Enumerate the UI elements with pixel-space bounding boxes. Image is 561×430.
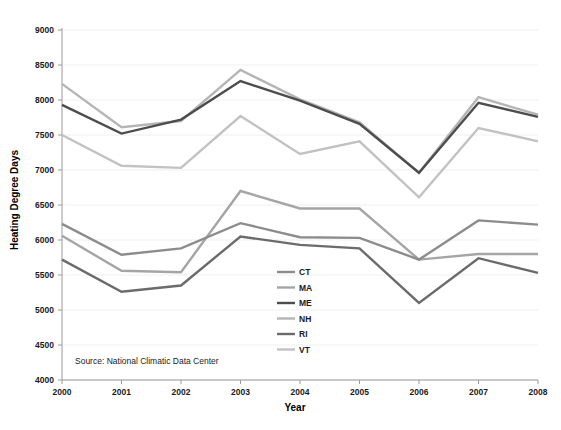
x-tick-label-2002: 2002 xyxy=(172,387,191,397)
legend-label-vt: VT xyxy=(299,345,311,355)
x-tick-label-2003: 2003 xyxy=(231,387,250,397)
y-tick-label-6000: 6000 xyxy=(35,235,54,245)
y-tick-label-5000: 5000 xyxy=(35,305,54,315)
x-tick-label-2008: 2008 xyxy=(529,387,548,397)
x-tick-label-2004: 2004 xyxy=(291,387,310,397)
y-tick-label-7500: 7500 xyxy=(35,130,54,140)
source-note: Source: National Climatic Data Center xyxy=(75,356,219,366)
legend-label-ri: RI xyxy=(299,329,308,339)
y-tick-label-7000: 7000 xyxy=(35,165,54,175)
y-tick-label-4500: 4500 xyxy=(35,340,54,350)
y-tick-label-4000: 4000 xyxy=(35,375,54,385)
legend-label-ma: MA xyxy=(299,283,312,293)
y-tick-label-8500: 8500 xyxy=(35,60,54,70)
x-tick-label-2001: 2001 xyxy=(112,387,131,397)
y-tick-label-9000: 9000 xyxy=(35,25,54,35)
legend-label-ct: CT xyxy=(299,267,311,277)
y-tick-label-6500: 6500 xyxy=(35,200,54,210)
line-chart: 4000450050005500600065007000750080008500… xyxy=(0,0,561,430)
y-tick-label-8000: 8000 xyxy=(35,95,54,105)
x-tick-label-2006: 2006 xyxy=(410,387,429,397)
y-axis-title: Heating Degree Days xyxy=(9,150,20,250)
chart-canvas: 4000450050005500600065007000750080008500… xyxy=(0,0,561,430)
x-tick-label-2000: 2000 xyxy=(53,387,72,397)
legend-label-me: ME xyxy=(299,298,312,308)
legend-label-nh: NH xyxy=(299,314,311,324)
x-tick-label-2005: 2005 xyxy=(350,387,369,397)
x-tick-label-2007: 2007 xyxy=(469,387,488,397)
y-tick-label-5500: 5500 xyxy=(35,270,54,280)
x-axis-title: Year xyxy=(284,402,305,413)
